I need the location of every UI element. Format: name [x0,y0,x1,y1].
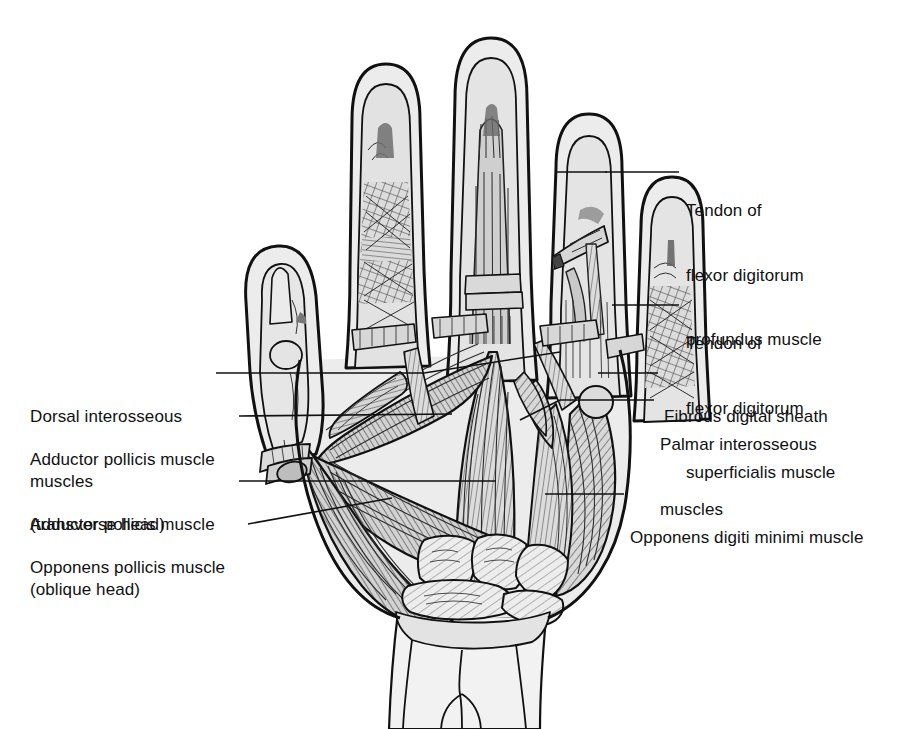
label-line: flexor digitorum [686,265,822,287]
carpal-bones [402,535,568,625]
anatomy-figure: Tendon of flexor digitorum profundus mus… [0,0,902,729]
label-line: Opponens digiti minimi muscle [630,527,863,549]
thumb [246,246,324,474]
label-opponens-digiti-minimi-muscle: Opponens digiti minimi muscle [630,484,863,592]
index-finger [346,64,430,368]
fifth-metacarpal-head [579,386,613,418]
label-opponens-pollicis-muscle: Opponens pollicis muscle [30,514,225,622]
label-line: Tendon of [686,333,835,355]
label-line: Adductor pollicis muscle [30,449,215,471]
label-line: Opponens pollicis muscle [30,557,225,579]
label-line: Palmar interosseous [660,434,817,456]
label-line: Tendon of [686,200,822,222]
